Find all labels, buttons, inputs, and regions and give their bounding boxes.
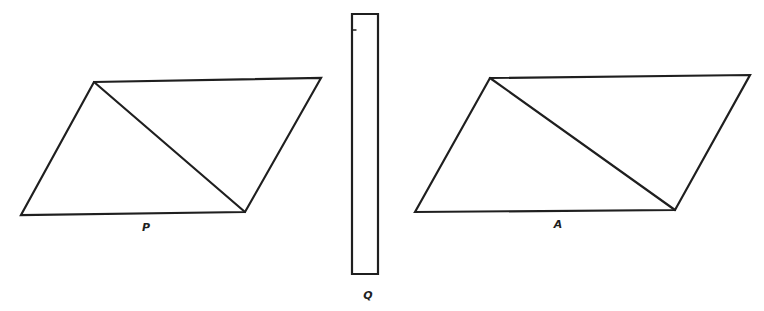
label-q: Q <box>363 289 372 302</box>
parallelogram-p <box>21 78 321 215</box>
diagonal-p <box>94 82 245 212</box>
label-a: A <box>553 218 563 231</box>
rectangle-q <box>352 14 378 274</box>
figure-a: A <box>415 75 750 231</box>
figure-q: Q <box>352 14 378 302</box>
figure-p: P <box>21 78 321 234</box>
label-p: P <box>142 221 150 234</box>
diagonal-a <box>490 78 675 210</box>
diagram-canvas: P Q A <box>0 0 764 311</box>
